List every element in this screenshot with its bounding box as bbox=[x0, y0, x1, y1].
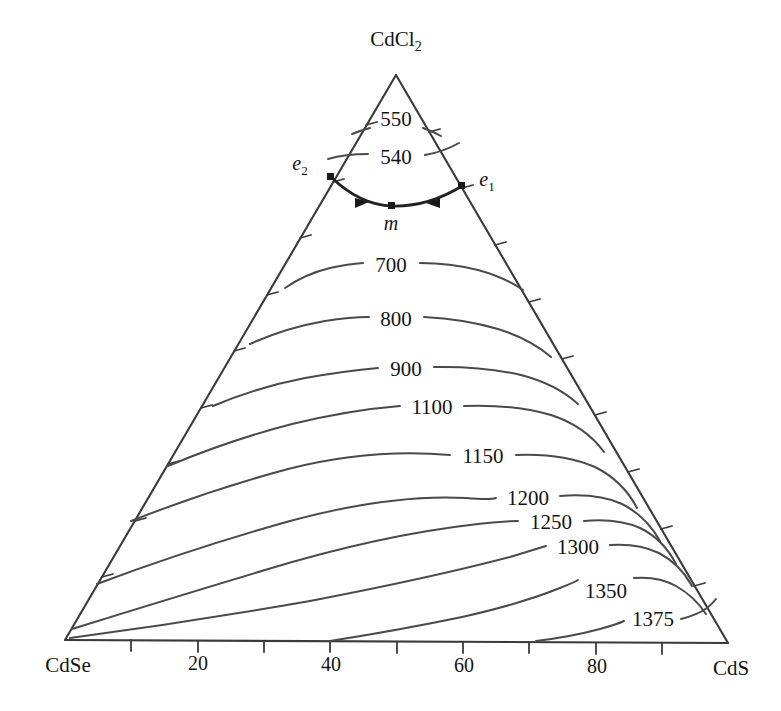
tick-right-70 bbox=[495, 242, 506, 245]
tick-marks-left bbox=[102, 122, 377, 577]
ternary-phase-diagram: CdCl2 CdSe CdS 20 40 60 80 550 540 700 8… bbox=[0, 0, 781, 711]
contour-1100-left-segment bbox=[168, 406, 400, 466]
tick-right-50 bbox=[562, 356, 573, 359]
contour-label-1300: 1300 bbox=[557, 535, 599, 559]
contour-label-1100: 1100 bbox=[411, 395, 452, 419]
contour-label-700: 700 bbox=[375, 253, 407, 277]
tick-right-20 bbox=[661, 526, 672, 529]
tick-right-30 bbox=[628, 469, 639, 472]
axis-tick-label-60: 60 bbox=[454, 654, 474, 676]
contour-label-1250: 1250 bbox=[530, 510, 572, 534]
trough-path-e2-m-e1 bbox=[331, 177, 462, 206]
axis-tick-label-40: 40 bbox=[321, 653, 341, 675]
contour-label-1375: 1375 bbox=[632, 607, 674, 631]
axis-tick-label-20: 20 bbox=[188, 652, 208, 674]
point-marker-e1 bbox=[458, 182, 465, 189]
contour-label-1150: 1150 bbox=[462, 444, 503, 468]
contour-label-800: 800 bbox=[380, 307, 412, 331]
contour-900-right-segment bbox=[434, 367, 578, 404]
point-label-e2: e2 bbox=[292, 152, 307, 178]
contour-800-left-segment bbox=[250, 317, 369, 344]
point-label-e1: e1 bbox=[479, 168, 494, 194]
point-marker-m bbox=[388, 202, 395, 209]
tick-right-40 bbox=[595, 412, 606, 415]
contour-1100 bbox=[168, 406, 604, 466]
vertex-label-cds: CdS bbox=[713, 656, 749, 680]
contour-900-left-segment bbox=[213, 368, 378, 406]
contour-label-1350: 1350 bbox=[585, 579, 627, 603]
vertex-label-cdse: CdSe bbox=[45, 653, 91, 677]
contour-1375 bbox=[536, 599, 716, 641]
axis-left-cdse-cdcl2 bbox=[65, 75, 396, 640]
contour-label-1200: 1200 bbox=[507, 486, 549, 510]
vertex-label-cdcl2: CdCl2 bbox=[370, 27, 421, 54]
axis-tick-labels: 20 40 60 80 bbox=[188, 652, 607, 677]
contour-1150-left-segment bbox=[131, 453, 450, 521]
ternary-diagram-canvas: CdCl2 CdSe CdS 20 40 60 80 550 540 700 8… bbox=[0, 0, 781, 711]
contour-1250-left-segment bbox=[72, 521, 518, 629]
point-label-m: m bbox=[384, 212, 398, 234]
contour-label-550: 550 bbox=[380, 107, 412, 131]
contour-1300-left-segment bbox=[70, 546, 546, 638]
contour-1375-left-segment bbox=[536, 621, 624, 641]
tick-right-60 bbox=[529, 299, 540, 302]
contour-800-right-segment bbox=[424, 317, 551, 357]
point-marker-e2 bbox=[327, 173, 334, 180]
contour-700-left-segment bbox=[285, 263, 363, 288]
contour-label-540: 540 bbox=[380, 145, 412, 169]
tick-right-10 bbox=[694, 583, 705, 586]
contour-1375-right-segment bbox=[681, 599, 716, 619]
eutectic-trough-curve bbox=[327, 173, 465, 209]
contour-label-900: 900 bbox=[390, 357, 422, 381]
axis-tick-label-80: 80 bbox=[587, 655, 607, 677]
